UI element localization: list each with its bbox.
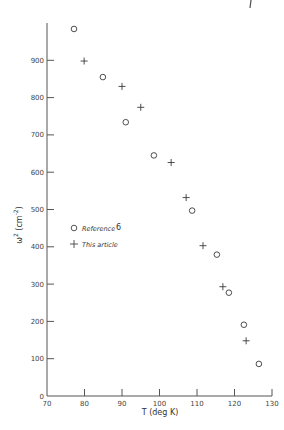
x-axis-title: T (deg K)	[141, 408, 179, 417]
circle-marker	[71, 26, 77, 32]
circle-marker	[214, 252, 220, 258]
y-tick-label: 900	[31, 57, 44, 65]
legend-label-reference-number: 6	[116, 223, 121, 232]
legend-plus-marker	[70, 240, 78, 248]
plus-marker	[200, 242, 207, 249]
plus-marker	[81, 58, 88, 65]
y-tick-label: 600	[31, 169, 44, 177]
plus-marker	[168, 159, 175, 166]
circle-marker	[189, 208, 195, 214]
circle-marker	[241, 322, 247, 328]
plus-marker	[243, 337, 250, 344]
x-ticks: 708090100110120130	[43, 389, 279, 408]
circle-marker	[151, 153, 157, 159]
x-tick-label: 80	[80, 400, 89, 408]
y-ticks: 0100200300400500600700800900	[31, 57, 54, 401]
y-tick-label: 200	[31, 318, 44, 326]
legend-circle-marker	[71, 225, 77, 231]
scatter-chart: 0100200300400500600700800900 70809010011…	[0, 0, 284, 430]
plus-marker	[119, 83, 126, 90]
y-tick-label: 300	[31, 281, 44, 289]
page-mark	[250, 0, 251, 8]
x-tick-label: 130	[265, 400, 278, 408]
x-tick-label: 90	[118, 400, 127, 408]
legend-label-this-article: This article	[82, 241, 118, 249]
legend-label-reference: Reference	[82, 225, 115, 233]
circle-marker	[256, 361, 262, 367]
x-tick-label: 100	[153, 400, 166, 408]
y-tick-label: 400	[31, 243, 44, 251]
y-tick-label: 500	[31, 206, 44, 214]
plus-marker	[137, 104, 144, 111]
x-tick-label: 110	[190, 400, 203, 408]
data-points	[71, 26, 261, 367]
axes: 0100200300400500600700800900 70809010011…	[31, 23, 279, 408]
y-tick-label: 100	[31, 355, 44, 363]
y-tick-label: 800	[31, 94, 44, 102]
legend: Reference 6 This article	[70, 223, 121, 249]
svg-text:ω2 (cm-2): ω2 (cm-2)	[12, 206, 24, 244]
y-tick-label: 700	[31, 131, 44, 139]
x-tick-label: 120	[228, 400, 241, 408]
plus-marker	[219, 283, 226, 290]
circle-marker	[226, 290, 232, 296]
x-tick-label: 70	[43, 400, 52, 408]
plus-marker	[183, 194, 190, 201]
y-axis-title: ω2 (cm-2)	[12, 206, 24, 244]
circle-marker	[123, 119, 129, 125]
circle-marker	[100, 74, 106, 80]
